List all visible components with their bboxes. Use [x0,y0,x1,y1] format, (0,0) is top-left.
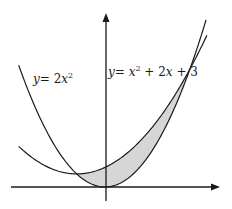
x-axis-arrow-icon [211,184,220,191]
label-y-equals-2x-squared: y= 2x2 [32,71,73,86]
shaded-region [77,69,190,187]
curve-y-equals-x-squared-plus-2x-plus-3 [19,35,207,174]
area-between-curves-diagram: y= 2x2 y= x2 + 2x + 3 [0,0,232,209]
curve-y-equals-2x-squared [19,20,206,187]
y-axis-arrow-icon [103,13,110,22]
diagram-canvas: y= 2x2 y= x2 + 2x + 3 [0,0,232,209]
label-y-equals-x-squared-plus-2x-plus-3: y= x2 + 2x + 3 [107,64,198,79]
